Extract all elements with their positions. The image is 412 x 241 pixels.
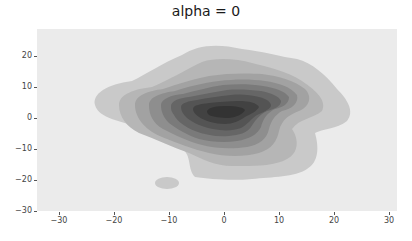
y-tick-label-neg20: −20 [2, 175, 32, 184]
x-tick-mark-neg10 [169, 212, 170, 215]
x-tick-label-0: 0 [209, 216, 239, 225]
x-tick-label-30: 30 [374, 216, 404, 225]
y-tick-label-neg30: −30 [2, 206, 32, 215]
x-tick-label-neg30: −30 [44, 216, 74, 225]
y-tick-label-0: 0 [2, 113, 32, 122]
x-tick-mark-10 [279, 212, 280, 215]
x-tick-label-neg20: −20 [99, 216, 129, 225]
x-tick-mark-neg20 [114, 212, 115, 215]
x-tick-label-10: 10 [264, 216, 294, 225]
y-tick-mark-neg30 [34, 211, 37, 212]
x-tick-mark-0 [224, 212, 225, 215]
plot-area [37, 29, 397, 211]
y-tick-mark-neg20 [34, 180, 37, 181]
chart-title: alpha = 0 [0, 3, 412, 19]
y-tick-label-neg10: −10 [2, 144, 32, 153]
contour-plot [37, 29, 397, 211]
y-tick-mark-10 [34, 87, 37, 88]
x-tick-label-neg10: −10 [154, 216, 184, 225]
x-tick-mark-20 [334, 212, 335, 215]
x-tick-label-20: 20 [319, 216, 349, 225]
x-tick-mark-30 [389, 212, 390, 215]
y-tick-mark-0 [34, 118, 37, 119]
y-tick-mark-neg10 [34, 149, 37, 150]
y-tick-label-10: 10 [2, 82, 32, 91]
x-tick-mark-neg30 [59, 212, 60, 215]
y-tick-label-20: 20 [2, 51, 32, 60]
y-tick-mark-20 [34, 56, 37, 57]
